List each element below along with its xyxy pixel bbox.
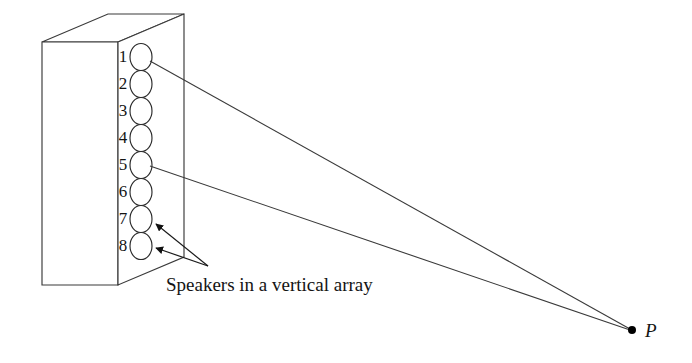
sound-ray-from-speaker-5 <box>150 166 630 330</box>
speaker-driver-6[interactable] <box>130 179 152 206</box>
observation-point-p: P <box>628 320 657 341</box>
speaker-driver-2[interactable] <box>130 71 152 98</box>
speaker-number-2: 2 <box>119 74 128 93</box>
speaker-driver-8[interactable] <box>130 233 152 260</box>
speaker-driver-3[interactable] <box>130 98 152 125</box>
speaker-driver-1[interactable] <box>130 44 152 71</box>
cabinet-left-face <box>42 42 118 285</box>
speaker-number-4: 4 <box>119 128 128 147</box>
diagram-canvas: 1 2 3 4 5 6 <box>0 0 692 363</box>
speaker-number-8: 8 <box>119 236 128 255</box>
speaker-driver-4[interactable] <box>130 125 152 152</box>
speaker-number-6: 6 <box>119 182 128 201</box>
figure-caption: Speakers in a vertical array <box>166 274 373 295</box>
speaker-number-1: 1 <box>119 47 128 66</box>
point-p-label: P <box>644 320 657 341</box>
point-p-dot <box>628 326 636 334</box>
speaker-array-diagram: 1 2 3 4 5 6 <box>0 0 692 363</box>
speaker-number-3: 3 <box>119 101 128 120</box>
speaker-number-7: 7 <box>119 209 128 228</box>
speaker-driver-7[interactable] <box>130 206 152 233</box>
speaker-cabinet <box>42 14 184 285</box>
speaker-number-5: 5 <box>119 155 128 174</box>
speaker-driver-5[interactable] <box>130 152 152 179</box>
